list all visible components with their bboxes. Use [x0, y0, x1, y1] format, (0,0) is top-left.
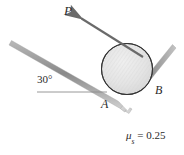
- mu-symbol: μ: [126, 129, 132, 141]
- angle-label-30-degrees: 30°: [37, 74, 52, 85]
- cylinder-body: [102, 44, 153, 95]
- contact-point-label-B: B: [155, 84, 162, 96]
- contact-point-label-A: A: [101, 98, 108, 110]
- friction-coefficient-label: μs = 0.25: [126, 130, 165, 144]
- mu-value: = 0.25: [134, 129, 165, 141]
- force-label-P: P: [64, 4, 72, 17]
